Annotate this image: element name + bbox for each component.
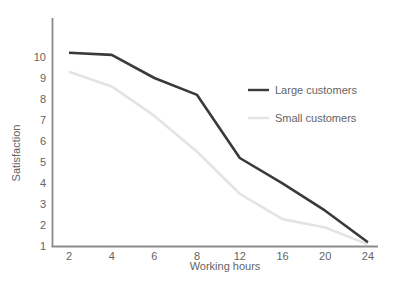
legend-label-small-customers: Small customers — [275, 112, 357, 124]
x-axis-title: Working hours — [190, 260, 261, 272]
series-line-small-customers — [69, 72, 368, 245]
series-line-large-customers — [69, 53, 368, 243]
x-tick-label-4: 4 — [109, 250, 115, 262]
satisfaction-line-chart: 12345678910 246812162024 Satisfaction Wo… — [0, 0, 393, 293]
y-axis-tick-labels: 12345678910 — [34, 51, 46, 253]
y-tick-label-2: 2 — [40, 219, 46, 231]
y-tick-label-1: 1 — [40, 240, 46, 252]
y-tick-label-8: 8 — [40, 93, 46, 105]
x-tick-label-20: 20 — [319, 250, 331, 262]
y-tick-label-10: 10 — [34, 51, 46, 63]
y-axis-title: Satisfaction — [10, 125, 22, 182]
chart-figure: 12345678910 246812162024 Satisfaction Wo… — [0, 0, 393, 293]
y-tick-label-5: 5 — [40, 156, 46, 168]
y-tick-label-4: 4 — [40, 177, 46, 189]
y-tick-label-9: 9 — [40, 72, 46, 84]
x-tick-label-24: 24 — [362, 250, 374, 262]
x-tick-label-16: 16 — [276, 250, 288, 262]
y-tick-label-7: 7 — [40, 114, 46, 126]
x-tick-label-6: 6 — [151, 250, 157, 262]
series-lines — [69, 53, 368, 245]
y-tick-label-3: 3 — [40, 198, 46, 210]
x-tick-label-2: 2 — [66, 250, 72, 262]
y-tick-label-6: 6 — [40, 135, 46, 147]
legend: Large customersSmall customers — [248, 84, 357, 124]
legend-label-large-customers: Large customers — [275, 84, 357, 96]
